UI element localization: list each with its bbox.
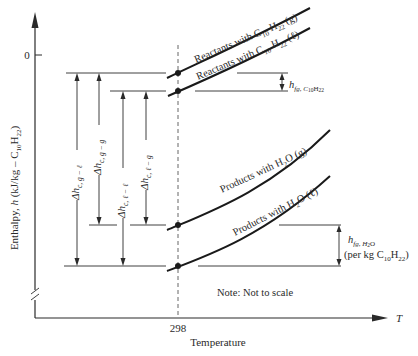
x-axis-arrow-icon: [372, 315, 388, 322]
x-tick-298: 298: [170, 322, 187, 334]
zero-tick-label: 0: [24, 49, 30, 61]
hfg-fuel-annotation: hfg, C10H22: [280, 73, 325, 93]
label-hfg-fuel: hfg, C10H22: [289, 79, 324, 93]
note-not-to-scale: Note: Not to scale: [217, 287, 293, 298]
label-per-kg-fuel: (per kg C10H22): [344, 249, 409, 263]
reference-levels: [64, 73, 341, 266]
state-point: [175, 222, 181, 228]
y-axis-label: Enthalpy, h (kJ/kg – C10H22): [8, 126, 23, 251]
x-axis-label: Temperature: [190, 336, 246, 348]
x-axis: T 298 Temperature: [35, 312, 403, 348]
label-hfg-water: hfg, H2O: [348, 234, 375, 248]
enthalpy-temperature-diagram: 0 Enthalpy, h (kJ/kg – C10H22) T 298 Tem…: [0, 0, 418, 356]
y-axis-arrow-icon: [32, 12, 39, 28]
hfg-water-annotation: hfg, H2O (per kg C10H22): [337, 225, 410, 266]
state-point: [175, 70, 181, 76]
state-point: [175, 263, 181, 269]
y-axis: 0 Enthalpy, h (kJ/kg – C10H22): [8, 12, 42, 318]
diagram-canvas: 0 Enthalpy, h (kJ/kg – C10H22) T 298 Tem…: [0, 0, 418, 356]
x-axis-variable: T: [396, 312, 403, 324]
enthalpy-curves: [167, 8, 330, 271]
label-products-gas: Products with H2O (g): [218, 145, 310, 198]
state-point: [175, 88, 181, 94]
